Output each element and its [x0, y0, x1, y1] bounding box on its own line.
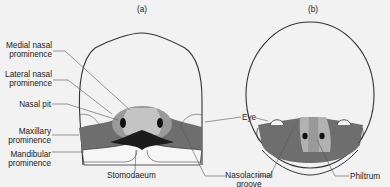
- label-maxillary-1: Maxillary: [0, 127, 51, 136]
- panel-b-title: (b): [302, 5, 324, 14]
- label-medial-nasal-2: prominence: [0, 50, 52, 59]
- panel-a-title: (a): [131, 5, 153, 14]
- embryo-face-diagram: [0, 0, 390, 187]
- label-philtrum: Philtrum: [350, 172, 380, 181]
- label-lateral-nasal-1: Lateral nasal: [0, 70, 52, 79]
- label-nasolacrimal-2: groove: [224, 180, 274, 187]
- panel-b-face: [246, 22, 374, 175]
- label-eye: Eye: [242, 113, 256, 122]
- label-mandibular-2: prominence: [0, 159, 51, 168]
- label-lateral-nasal-2: prominence: [0, 79, 52, 88]
- label-nasolacrimal-1: Nasolacrimal: [224, 171, 274, 180]
- label-nasal-pit: Nasal pit: [0, 100, 51, 109]
- label-stomodaeum: Stomodaeum: [107, 171, 156, 180]
- label-mandibular-1: Mandibular: [0, 150, 51, 159]
- panel-a-face: [79, 33, 202, 165]
- label-maxillary-2: prominence: [0, 136, 51, 145]
- label-medial-nasal-1: Medial nasal: [0, 41, 52, 50]
